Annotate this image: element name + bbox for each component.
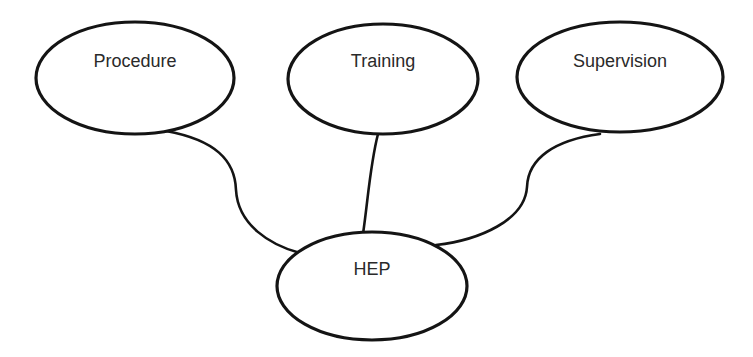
- node-training-shape: [288, 24, 478, 134]
- node-hep[interactable]: HEP: [277, 232, 467, 340]
- node-supervision[interactable]: Supervision: [517, 22, 723, 132]
- node-training[interactable]: Training: [288, 24, 478, 134]
- node-supervision-label: Supervision: [573, 51, 667, 71]
- edge-supervision-to-hep: [436, 134, 600, 245]
- node-procedure-shape: [36, 22, 234, 134]
- edge-procedure-to-hep: [166, 131, 300, 253]
- node-procedure[interactable]: Procedure: [36, 22, 234, 134]
- node-training-label: Training: [351, 51, 415, 71]
- node-hep-shape: [277, 232, 467, 340]
- edge-training-to-hep: [363, 134, 378, 234]
- influence-diagram: Procedure Training Supervision HEP: [0, 0, 753, 357]
- node-hep-label: HEP: [353, 259, 390, 279]
- node-supervision-shape: [517, 22, 723, 132]
- node-procedure-label: Procedure: [93, 51, 176, 71]
